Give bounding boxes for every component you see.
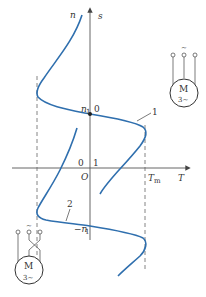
curve-1-label: 1: [137, 107, 158, 121]
n1-label: n 1: [81, 104, 90, 116]
origin-label: O: [81, 172, 89, 182]
curve-2-label: 2: [66, 199, 73, 221]
curve-1: [37, 15, 146, 194]
axis-label-s: s: [98, 11, 103, 21]
tm-label: T m: [148, 173, 161, 185]
slip-zero-lower-label: 0: [78, 158, 84, 168]
slip-zero-label: 0: [94, 104, 100, 114]
axis-label-n: n: [70, 10, 76, 20]
svg-text:M: M: [24, 261, 33, 271]
svg-text:~: ~: [181, 44, 187, 52]
torque-speed-diagram: n s T O T m n 1 0 0 1 −n 1 1 2 ~ M 3~: [0, 0, 206, 297]
svg-text:3~: 3~: [23, 274, 33, 282]
svg-text:1: 1: [85, 228, 89, 236]
motor-reverse: ~ M 3~: [15, 222, 43, 284]
neg-n1-label: −n 1: [74, 224, 89, 236]
svg-text:1: 1: [152, 107, 158, 117]
motor-forward: ~ M 3~: [170, 44, 198, 107]
curve-2: [37, 128, 146, 276]
svg-text:M: M: [179, 84, 188, 94]
svg-text:3~: 3~: [178, 96, 188, 104]
slip-one-label: 1: [93, 158, 99, 168]
svg-text:2: 2: [67, 199, 73, 209]
svg-text:1: 1: [86, 108, 90, 116]
axis-label-t: T: [178, 173, 185, 183]
svg-text:m: m: [154, 177, 161, 185]
svg-text:~: ~: [26, 222, 32, 230]
